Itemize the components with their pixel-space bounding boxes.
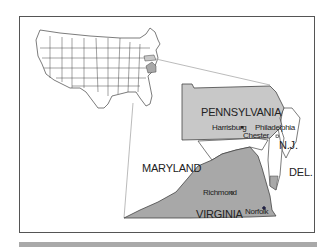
label-del: DEL. [289, 167, 313, 178]
bottom-divider-bar [19, 242, 317, 247]
label-harrisburg: Harrisburg [212, 124, 246, 132]
overview-pennsylvania [144, 55, 156, 61]
label-virginia: VIRGINIA [196, 209, 243, 220]
label-richmond: Richmond [203, 189, 237, 197]
us-overview-map [36, 28, 160, 108]
label-pennsylvania: PENNSYLVANIA [201, 107, 281, 118]
label-nj: N.J. [279, 140, 298, 151]
label-norfolk: Norfolk [245, 208, 268, 216]
label-chester: Chester [243, 132, 269, 140]
label-maryland: MARYLAND [142, 163, 201, 174]
